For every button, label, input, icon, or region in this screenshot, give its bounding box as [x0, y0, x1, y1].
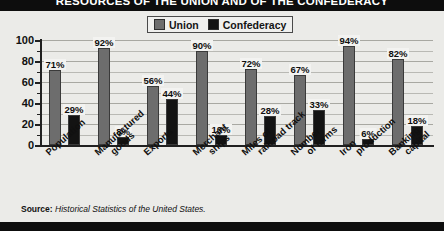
bar-value-label: 94%	[338, 35, 360, 46]
bar-value-label: 72%	[240, 58, 262, 69]
legend-item-confederacy: Confederacy	[208, 19, 287, 31]
chart-title-band: RESOURCES OF THE UNION AND OF THE CONFED…	[0, 0, 444, 11]
bar-union[interactable]: 90%	[196, 51, 208, 146]
legend-label-confederacy: Confederacy	[223, 19, 287, 31]
y-axis-label: 100	[16, 34, 34, 46]
bar-value-label: 67%	[289, 64, 311, 75]
y-axis-label: 60	[22, 76, 34, 88]
bar-value-label: 56%	[142, 75, 164, 86]
bar-value-label: 33%	[308, 99, 330, 110]
bottom-rule	[0, 222, 444, 231]
source-text: Historical Statistics of the United Stat…	[55, 204, 206, 214]
legend-label-union: Union	[169, 19, 199, 31]
bar-union[interactable]: 94%	[343, 46, 355, 145]
legend-swatch-confederacy	[208, 19, 219, 30]
bar-value-label: 28%	[259, 105, 281, 116]
bar-union[interactable]: 82%	[392, 59, 404, 145]
bar-value-label: 44%	[161, 88, 183, 99]
y-axis-line	[40, 39, 42, 146]
bar-value-label: 90%	[191, 40, 213, 51]
legend-item-union: Union	[154, 19, 199, 31]
y-axis-label: 80	[22, 55, 34, 67]
y-axis-label: 20	[22, 118, 34, 130]
bar-value-label: 92%	[93, 37, 115, 48]
legend-swatch-union	[154, 19, 165, 30]
bar-value-label: 29%	[63, 104, 85, 115]
chart-title: RESOURCES OF THE UNION AND OF THE CONFED…	[0, 0, 444, 7]
y-axis-label: 0	[28, 139, 34, 151]
bar-value-label: 82%	[387, 48, 409, 59]
y-axis-label: 40	[22, 97, 34, 109]
source-note: Source: Historical Statistics of the Uni…	[21, 204, 206, 214]
bar-union[interactable]: 92%	[98, 48, 110, 145]
source-label: Source:	[21, 204, 53, 214]
chart-legend: Union Confederacy	[147, 16, 293, 33]
chart-figure: RESOURCES OF THE UNION AND OF THE CONFED…	[0, 0, 444, 231]
bar-value-label: 71%	[44, 59, 66, 70]
